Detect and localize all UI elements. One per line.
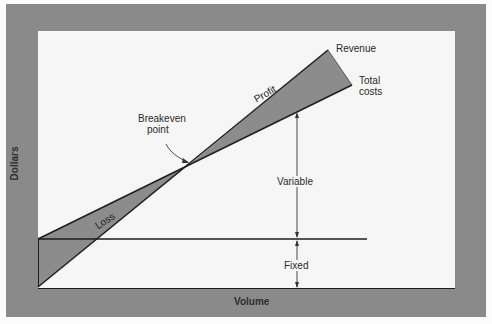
profit-region: [190, 50, 352, 164]
y-axis-label: Dollars: [9, 147, 20, 181]
breakeven-label-2: point: [147, 124, 169, 135]
fixed-label: Fixed: [283, 260, 309, 271]
total-costs-label: Total: [359, 75, 380, 86]
total-costs-label-2: costs: [359, 86, 382, 97]
variable-arrow: [295, 112, 299, 238]
x-axis-label: Volume: [234, 296, 269, 307]
variable-label: Variable: [276, 176, 314, 187]
total-costs-line: [38, 85, 352, 239]
breakeven-label: Breakeven: [138, 113, 186, 124]
breakeven-pointer: [166, 144, 188, 162]
breakeven-chart: [0, 0, 492, 324]
revenue-label: Revenue: [336, 43, 376, 54]
